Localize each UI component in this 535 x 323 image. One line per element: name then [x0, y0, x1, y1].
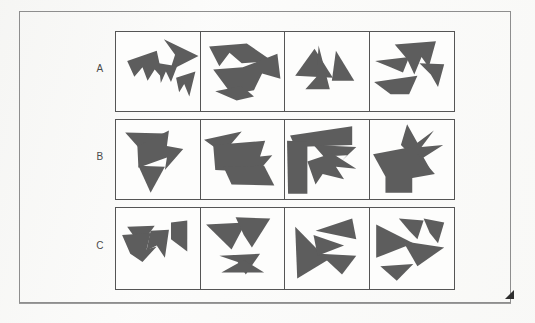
row-label-a: A	[90, 63, 110, 74]
polygon-c4-1	[376, 225, 413, 258]
shape-cluster-c2	[201, 208, 285, 289]
shape-cluster-b3	[285, 120, 369, 199]
shape-cluster-b1	[116, 120, 200, 199]
grid-cell-c2[interactable]	[201, 208, 286, 289]
polygon-c4-3	[423, 218, 444, 243]
shape-grid	[115, 31, 455, 290]
polygon-c4-5	[380, 264, 413, 281]
row-label-b: B	[90, 151, 110, 162]
grid-cell-a1[interactable]	[116, 32, 201, 111]
polygon-a1-4	[176, 72, 195, 97]
shape-cluster-a4	[370, 32, 455, 111]
worksheet-page: A B C	[0, 0, 535, 323]
shape-cluster-b2	[201, 120, 285, 199]
grid-row-c	[115, 207, 455, 290]
shape-cluster-b4	[370, 120, 455, 199]
polygon-c3-2	[316, 218, 357, 239]
grid-row-a	[115, 31, 455, 112]
grid-cell-b2[interactable]	[201, 120, 286, 199]
polygon-a3-1	[295, 49, 333, 78]
grid-cell-a4[interactable]	[370, 32, 455, 111]
grid-cell-b1[interactable]	[116, 120, 201, 199]
polygon-a1-2	[127, 51, 163, 81]
polygon-c2-1	[206, 223, 246, 250]
shape-cluster-c3	[285, 208, 369, 289]
polygon-a1-3	[159, 63, 177, 83]
polygon-c1-4	[171, 220, 187, 251]
polygon-a4-3	[419, 63, 444, 87]
polygon-a4-4	[374, 76, 417, 95]
shape-cluster-a1	[116, 32, 200, 111]
polygon-c3-4	[320, 254, 357, 275]
row-label-c: C	[90, 240, 110, 251]
polygon-c4-4	[402, 241, 443, 266]
corner-fold-marker-icon	[505, 290, 514, 299]
grid-cell-c1[interactable]	[116, 208, 201, 289]
grid-cell-c4[interactable]	[370, 208, 455, 289]
polygon-b1-3	[138, 166, 164, 193]
polygon-c2-2	[235, 217, 270, 247]
polygon-a4-2	[375, 57, 409, 73]
shape-cluster-c1	[116, 208, 200, 289]
polygon-b3-2	[287, 141, 307, 194]
polygon-b4-3	[385, 177, 412, 193]
shape-cluster-c4	[370, 208, 455, 289]
polygon-a3-3	[332, 51, 354, 81]
grid-cell-b3[interactable]	[285, 120, 370, 199]
grid-cell-b4[interactable]	[370, 120, 455, 199]
shape-cluster-a2	[201, 32, 285, 111]
polygon-c3-3	[314, 235, 345, 256]
grid-cell-c3[interactable]	[285, 208, 370, 289]
polygon-c4-2	[398, 218, 423, 239]
polygon-b2-3	[223, 166, 274, 186]
grid-cell-a2[interactable]	[201, 32, 286, 111]
polygon-b3-4	[307, 153, 356, 184]
polygon-c2-4	[221, 260, 264, 272]
grid-cell-a3[interactable]	[285, 32, 370, 111]
shape-cluster-a3	[285, 32, 369, 111]
grid-row-b	[115, 119, 455, 200]
